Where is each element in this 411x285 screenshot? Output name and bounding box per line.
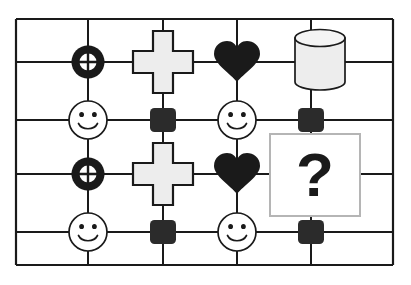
smiley-face-icon[interactable] [218, 213, 256, 251]
rounded-square-icon[interactable] [150, 220, 176, 244]
cylinder-icon[interactable] [295, 30, 345, 91]
plus-cross-icon[interactable] [133, 143, 193, 205]
rounded-square-icon[interactable] [150, 108, 176, 132]
smiley-face-icon[interactable] [69, 213, 107, 251]
rounded-square-icon[interactable] [298, 108, 324, 132]
diagram-canvas: ? [0, 0, 411, 285]
plus-cross-icon[interactable] [133, 31, 193, 93]
crosshair-ring-icon[interactable] [72, 46, 105, 79]
smiley-face-icon[interactable] [218, 101, 256, 139]
question-mark-symbol: ? [272, 136, 358, 214]
smiley-face-icon[interactable] [69, 101, 107, 139]
crosshair-ring-icon[interactable] [72, 158, 105, 191]
rounded-square-icon[interactable] [298, 220, 324, 244]
